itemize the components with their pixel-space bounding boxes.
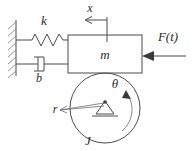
- damper-b: [16, 57, 68, 71]
- force-arrow: [142, 51, 186, 61]
- displacement-label: x: [86, 1, 93, 15]
- fixed-wall: [8, 20, 16, 78]
- angle-arc-arrow: [122, 90, 132, 131]
- spring-label: k: [41, 13, 47, 28]
- angle-label: θ: [112, 76, 119, 91]
- pivot-support: [92, 100, 118, 116]
- mechanical-system-diagram: k b m x: [0, 0, 194, 151]
- diagram-canvas: k b m x: [0, 0, 194, 151]
- spring-k: [16, 34, 68, 46]
- mass-label: m: [100, 47, 109, 62]
- radius-label: r: [53, 102, 58, 116]
- force-label: F(t): [157, 29, 178, 44]
- damper-label: b: [36, 71, 42, 85]
